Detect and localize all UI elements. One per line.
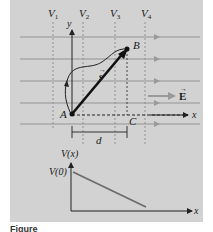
label-b: B: [133, 39, 140, 51]
v0-label: V(0): [49, 166, 67, 178]
svg-text:V2: V2: [79, 7, 90, 21]
axes: [72, 30, 188, 115]
displacement-vector: [72, 52, 124, 114]
s-vector-arrow-icon: →: [99, 66, 106, 74]
field-diagram: V1 V2 V3 V4 y x s → A B C E → d V(x) V(: [0, 0, 213, 232]
d-label: d: [96, 134, 102, 146]
potential-line: [73, 172, 146, 207]
graph-x-label: x: [193, 205, 199, 216]
y-axis-label: y: [66, 18, 72, 29]
svg-text:V3: V3: [110, 7, 121, 21]
point-a: [70, 112, 75, 117]
field-lines: [20, 37, 200, 124]
x-axis-label: x: [191, 109, 197, 120]
equipotential-labels: V1 V2 V3 V4: [48, 7, 152, 21]
vx-label: V(x): [61, 148, 79, 160]
e-field-arrow-icon: [168, 92, 176, 100]
point-b: [125, 47, 130, 52]
e-vector-arrow-icon: →: [180, 85, 187, 93]
figure-caption: Figure: [10, 224, 38, 232]
svg-text:V1: V1: [48, 7, 59, 21]
label-c: C: [129, 115, 137, 127]
label-a: A: [59, 108, 67, 120]
potential-graph: [71, 163, 192, 211]
svg-text:V4: V4: [141, 7, 152, 21]
